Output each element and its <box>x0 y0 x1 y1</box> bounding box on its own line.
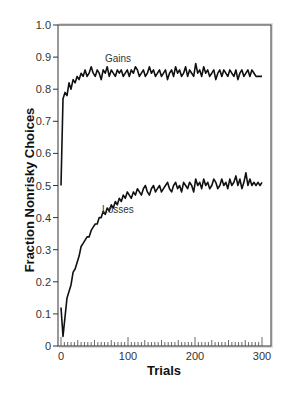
annotation-losses: Losses <box>102 204 134 215</box>
y-tick-label: 0.8 <box>36 83 51 95</box>
annotation-gains: Gains <box>105 53 131 64</box>
x-tick-label: 0 <box>58 350 64 362</box>
x-tick-label: 200 <box>186 350 204 362</box>
x-axis-title: Trials <box>147 363 181 378</box>
y-tick-label: 0.6 <box>36 147 51 159</box>
y-axis: 00.10.20.30.40.50.60.70.80.91.0 <box>36 19 58 352</box>
y-tick-label: 0.4 <box>36 212 51 224</box>
line-chart: 00.10.20.30.40.50.60.70.80.91.0 01002003… <box>0 0 292 398</box>
x-tick-label: 100 <box>119 350 137 362</box>
y-tick-label: 0 <box>45 340 51 352</box>
y-tick-label: 0.1 <box>36 308 51 320</box>
y-tick-label: 1.0 <box>36 19 51 31</box>
y-tick-label: 0.3 <box>36 244 51 256</box>
x-tick-label: 300 <box>253 350 271 362</box>
y-tick-label: 0.5 <box>36 180 51 192</box>
y-axis-title: Fraction Nonrisky Choices <box>22 108 37 273</box>
y-tick-label: 0.2 <box>36 276 51 288</box>
y-tick-label: 0.9 <box>36 51 51 63</box>
y-tick-label: 0.7 <box>36 115 51 127</box>
